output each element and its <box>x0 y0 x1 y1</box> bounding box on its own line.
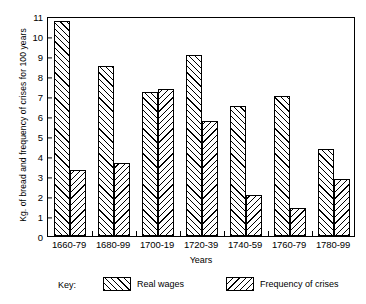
x-axis-tick-label: 1700-19 <box>140 239 174 250</box>
bar <box>158 89 174 236</box>
bar <box>274 96 290 236</box>
x-axis-tick-mark <box>92 231 93 236</box>
legend-swatch-real-wages <box>103 277 131 291</box>
legend-swatch-frequency-of-crises <box>226 277 254 291</box>
bar <box>98 66 114 236</box>
y-axis-tick-label: 4 <box>38 153 48 163</box>
x-axis-tick-label: 1720-39 <box>184 239 218 250</box>
y-axis-tick-label: 2 <box>38 193 48 203</box>
bar <box>334 179 350 236</box>
x-axis-tick-label: 1660-79 <box>52 239 86 250</box>
legend-item-real-wages: Real wages <box>103 277 184 291</box>
y-axis-title: Kg. of bread and frequency of crises for… <box>18 10 28 240</box>
legend-key-prefix: Key: <box>58 280 76 290</box>
y-axis-tick-label: 6 <box>38 113 48 123</box>
x-axis-tick-mark <box>268 231 269 236</box>
y-axis-tick-label: 3 <box>38 173 48 183</box>
y-axis-tick-label: 7 <box>38 93 48 103</box>
x-axis-tick-mark <box>224 231 225 236</box>
bar <box>54 21 70 236</box>
x-axis-tick-label: 1760-79 <box>272 239 306 250</box>
bar <box>70 170 86 236</box>
x-axis-tick-label: 1680-99 <box>96 239 130 250</box>
bar <box>318 149 334 236</box>
legend-label-real-wages: Real wages <box>137 279 184 289</box>
bar <box>230 106 246 236</box>
bars-container <box>48 18 354 236</box>
legend: Key: Real wages Frequency of crises <box>0 275 366 299</box>
y-axis-tick-label: 1 <box>38 213 48 223</box>
y-axis-tick-label: 8 <box>38 73 48 83</box>
bar <box>186 55 202 236</box>
x-axis-tick-mark <box>136 231 137 236</box>
x-axis-tick-mark <box>312 231 313 236</box>
bar <box>246 195 262 236</box>
plot-area: 01234567891011 <box>47 17 355 237</box>
bar <box>202 121 218 236</box>
y-axis-tick-label: 5 <box>38 133 48 143</box>
bar <box>290 208 306 236</box>
y-axis-tick-label: 11 <box>33 13 48 23</box>
y-axis-tick-label: 10 <box>32 33 48 43</box>
x-axis-title: Years <box>47 255 355 265</box>
legend-label-frequency-of-crises: Frequency of crises <box>260 279 339 289</box>
bar <box>142 92 158 236</box>
legend-item-frequency-of-crises: Frequency of crises <box>226 277 339 291</box>
bar-chart: Kg. of bread and frequency of crises for… <box>0 0 366 304</box>
x-axis-tick-labels: 1660-791680-991700-191720-391740-591760-… <box>47 239 355 253</box>
bar <box>114 163 130 236</box>
x-axis-tick-label: 1780-99 <box>316 239 350 250</box>
y-axis-tick-label: 9 <box>38 53 48 63</box>
x-axis-tick-mark <box>180 231 181 236</box>
x-axis-tick-label: 1740-59 <box>228 239 262 250</box>
